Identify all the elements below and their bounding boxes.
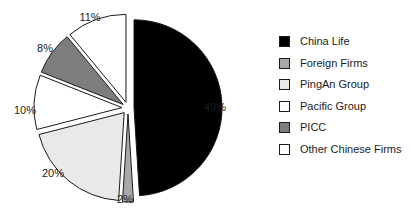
legend-swatch-foreign-firms: [279, 58, 290, 69]
legend-item-pacific-group[interactable]: Pacific Group: [279, 96, 409, 118]
pie-label-pingan-group: 20%: [42, 167, 64, 179]
legend-swatch-picc: [279, 122, 290, 133]
legend-label-pingan-group: PingAn Group: [300, 79, 369, 90]
legend-label-china-life: China Life: [300, 36, 350, 47]
legend-swatch-other-chinese-firms: [279, 144, 290, 155]
pie-label-picc: 8%: [37, 42, 53, 54]
legend-label-other-chinese-firms: Other Chinese Firms: [300, 144, 401, 155]
legend-label-pacific-group: Pacific Group: [300, 101, 366, 112]
pie-chart-svg: 49% 2% 20% 10% 8% 11%: [0, 0, 265, 217]
legend-label-picc: PICC: [300, 122, 326, 133]
legend-label-foreign-firms: Foreign Firms: [300, 58, 368, 69]
pie-label-pacific-group: 10%: [14, 104, 36, 116]
legend-swatch-pacific-group: [279, 101, 290, 112]
chart-legend: China Life Foreign Firms PingAn Group Pa…: [279, 31, 409, 160]
legend-item-china-life[interactable]: China Life: [279, 31, 409, 53]
pie-chart-plot-area: 49% 2% 20% 10% 8% 11%: [0, 0, 265, 217]
legend-swatch-china-life: [279, 36, 290, 47]
legend-item-pingan-group[interactable]: PingAn Group: [279, 74, 409, 96]
legend-swatch-pingan-group: [279, 79, 290, 90]
pie-label-other-chinese-firms: 11%: [79, 11, 100, 23]
pie-chart-figure: 49% 2% 20% 10% 8% 11% China Life Foreign…: [0, 0, 412, 217]
legend-item-foreign-firms[interactable]: Foreign Firms: [279, 53, 409, 75]
pie-slice-foreign-firms[interactable]: [122, 114, 133, 202]
legend-item-picc[interactable]: PICC: [279, 117, 409, 139]
pie-label-foreign-firms: 2%: [117, 193, 133, 205]
pie-label-china-life: 49%: [204, 101, 226, 113]
legend-item-other-chinese-firms[interactable]: Other Chinese Firms: [279, 139, 409, 161]
